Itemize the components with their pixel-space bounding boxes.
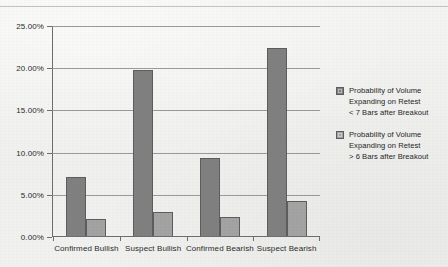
- x-axis-tick: [187, 236, 188, 241]
- y-axis-tick: [47, 237, 52, 238]
- x-axis-category-label: Confirmed Bullish: [54, 244, 118, 253]
- y-axis-tick-label: 10.00%: [16, 148, 44, 157]
- legend-label-line: Probability of Volume: [349, 130, 428, 141]
- y-axis-tick: [47, 68, 52, 69]
- legend-label-line: Expanding on Retest: [349, 141, 428, 152]
- x-axis-tick: [319, 236, 320, 241]
- legend-label-line: Probability of Volume: [349, 86, 428, 97]
- x-axis-tick: [253, 236, 254, 241]
- y-axis-tick-label: 20.00%: [16, 64, 44, 73]
- legend-swatch-icon: [336, 131, 344, 139]
- bar-0[interactable]: [66, 177, 86, 236]
- bar-group: Suspect Bearish: [253, 26, 320, 236]
- y-axis-tick-label: 0.00%: [21, 233, 44, 242]
- y-axis-tick: [47, 26, 52, 27]
- chart-legend: Probability of VolumeExpanding on Retest…: [336, 86, 442, 175]
- legend-label: Probability of VolumeExpanding on Retest…: [349, 130, 428, 162]
- x-axis-tick: [53, 236, 54, 241]
- bar-0[interactable]: [267, 48, 287, 236]
- legend-item-0[interactable]: Probability of VolumeExpanding on Retest…: [336, 86, 442, 118]
- legend-label-line: > 6 Bars after Breakout: [349, 152, 428, 163]
- legend-item-1[interactable]: Probability of VolumeExpanding on Retest…: [336, 130, 442, 162]
- bar-1[interactable]: [153, 212, 173, 236]
- y-axis-tick: [47, 195, 52, 196]
- y-axis-tick-label: 5.00%: [21, 190, 44, 199]
- x-axis-category-label: Suspect Bullish: [125, 244, 181, 253]
- legend-label: Probability of VolumeExpanding on Retest…: [349, 86, 428, 118]
- chart-plot-area: 25.00%20.00%15.00%10.00%5.00%0.00% Confi…: [52, 26, 320, 237]
- bar-group: Confirmed Bullish: [53, 26, 120, 236]
- bar-group: Confirmed Bearish: [187, 26, 254, 236]
- bar-1[interactable]: [287, 201, 307, 236]
- y-axis-tick-label: 15.00%: [16, 106, 44, 115]
- y-axis-tick: [47, 110, 52, 111]
- x-axis-tick: [120, 236, 121, 241]
- bar-1[interactable]: [220, 217, 240, 236]
- x-axis-category-label: Suspect Bearish: [257, 244, 317, 253]
- legend-label-line: < 7 Bars after Breakout: [349, 108, 428, 119]
- bar-group: Suspect Bullish: [120, 26, 187, 236]
- x-axis-category-label: Confirmed Bearish: [186, 244, 254, 253]
- bar-0[interactable]: [133, 70, 153, 236]
- y-axis-tick: [47, 153, 52, 154]
- legend-swatch-icon: [336, 87, 344, 95]
- legend-label-line: Expanding on Retest: [349, 97, 428, 108]
- figure-page: 25.00%20.00%15.00%10.00%5.00%0.00% Confi…: [0, 0, 448, 267]
- bar-0[interactable]: [200, 158, 220, 236]
- figure-top-rule: [0, 6, 448, 7]
- bar-groups: Confirmed BullishSuspect BullishConfirme…: [53, 26, 320, 236]
- y-axis-tick-label: 25.00%: [16, 22, 44, 31]
- bar-1[interactable]: [86, 219, 106, 236]
